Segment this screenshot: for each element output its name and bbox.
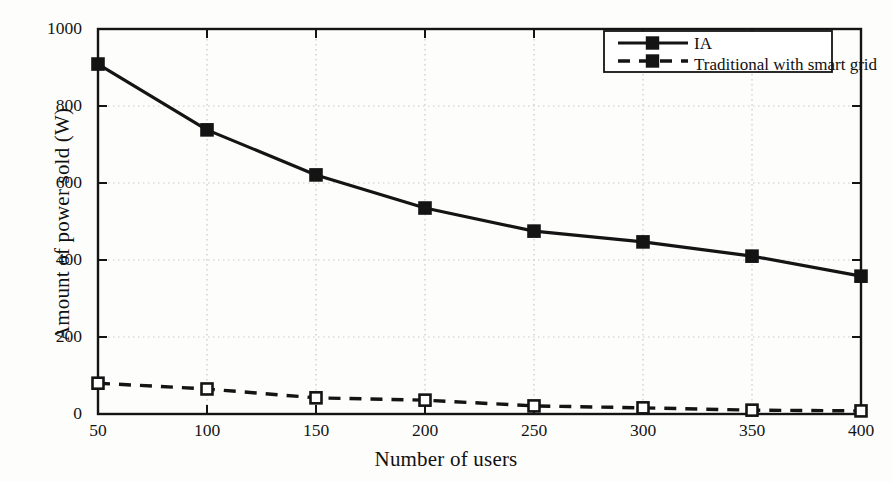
data-point-marker — [747, 405, 758, 416]
data-point-marker — [638, 236, 649, 247]
data-point-marker — [856, 405, 867, 416]
data-point-marker — [311, 169, 322, 180]
data-point-marker — [93, 378, 104, 389]
data-point-marker — [202, 383, 213, 394]
axis-ticks — [98, 29, 861, 414]
data-point-marker — [529, 226, 540, 237]
data-point-marker — [747, 251, 758, 262]
legend-label-ia: IA — [694, 34, 712, 54]
data-point-marker — [856, 271, 867, 282]
data-point-marker — [638, 402, 649, 413]
gridlines — [98, 29, 861, 414]
data-point-marker — [420, 395, 431, 406]
data-point-marker — [93, 59, 104, 70]
data-point-marker — [202, 124, 213, 135]
data-series-layer — [93, 59, 867, 417]
figure-canvas: Amount of power sold (W) Number of users… — [0, 0, 892, 482]
data-point-marker — [311, 392, 322, 403]
axis-frame — [98, 29, 861, 414]
legend-label-traditional: Traditional with smart grid — [694, 55, 877, 75]
data-point-marker — [420, 203, 431, 214]
data-point-marker — [529, 400, 540, 411]
